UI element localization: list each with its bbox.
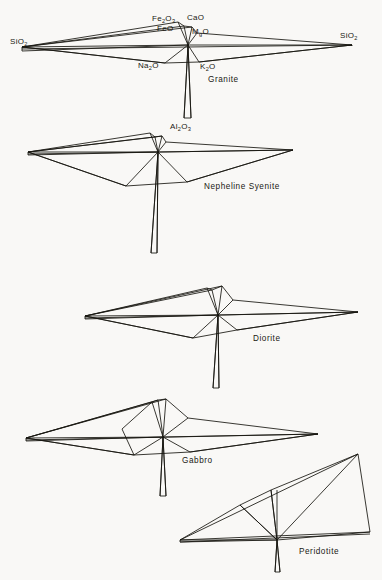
rock-label-nepheline-syenite: Nepheline Syenite bbox=[204, 182, 280, 191]
gabbro-hull bbox=[26, 399, 318, 455]
label-fe2o3: Fe2O3 bbox=[152, 14, 175, 24]
label-al2o3: Al2O3 bbox=[170, 122, 191, 132]
peridotite-hull bbox=[180, 454, 370, 542]
rock-label-diorite: Diorite bbox=[253, 334, 281, 343]
label-mgo: MgO bbox=[192, 27, 209, 37]
gabbro-rays bbox=[26, 399, 318, 496]
label-feo: FeO bbox=[157, 24, 173, 33]
figure-plate: SiO2 SiO2 Fe2O3 CaO FeO MgO Na2O K2O Al2… bbox=[0, 0, 382, 580]
label-k2o: K2O bbox=[200, 62, 216, 72]
diorite-al2o3-spike bbox=[213, 315, 219, 388]
nepheline-al2o3-spike bbox=[151, 152, 158, 253]
label-sio2-left: SiO2 bbox=[10, 37, 28, 47]
figure-peridotite bbox=[180, 454, 370, 572]
figure-diorite bbox=[85, 286, 358, 388]
gabbro-al2o3-spike bbox=[160, 437, 166, 496]
rock-label-peridotite: Peridotite bbox=[299, 547, 339, 556]
composition-diagram-svg: SiO2 SiO2 Fe2O3 CaO FeO MgO Na2O K2O Al2… bbox=[0, 0, 382, 580]
peridotite-rays bbox=[180, 454, 370, 572]
peridotite-spike bbox=[275, 540, 280, 572]
rock-label-granite: Granite bbox=[208, 75, 239, 84]
figure-granite bbox=[22, 22, 352, 118]
rock-label-gabbro: Gabbro bbox=[182, 456, 213, 465]
granite-al2o3-spike bbox=[184, 45, 191, 118]
label-sio2-right: SiO2 bbox=[340, 31, 358, 41]
figure-nepheline-syenite bbox=[28, 133, 293, 253]
label-na2o: Na2O bbox=[138, 61, 159, 71]
label-cao: CaO bbox=[187, 13, 204, 22]
figure-gabbro bbox=[26, 399, 318, 496]
diorite-rays bbox=[85, 286, 358, 388]
